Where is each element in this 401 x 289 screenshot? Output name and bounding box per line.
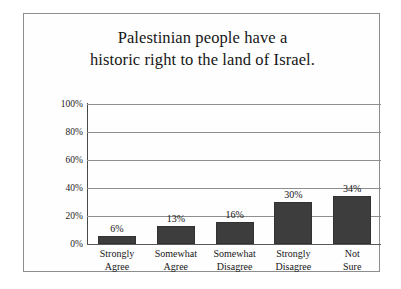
category-label: Not Sure (320, 248, 384, 273)
category-label: Strongly Agree (85, 248, 149, 273)
y-tick-label-60: 60% (49, 155, 83, 165)
category-label: Somewhat Agree (144, 248, 208, 273)
y-axis-tick-labels: 100%80%60%40%20%0% (49, 14, 83, 289)
bar-value-label: 30% (265, 189, 321, 200)
y-tick-label-40: 40% (49, 183, 83, 193)
bar-value-label: 6% (89, 223, 145, 234)
gridline-0 (87, 244, 381, 245)
chart-frame: Palestinian people have a historic right… (23, 13, 380, 272)
bar[interactable] (274, 202, 312, 244)
y-tick-label-100: 100% (49, 99, 83, 109)
y-tick-label-80: 80% (49, 127, 83, 137)
bar[interactable] (333, 196, 371, 244)
bar[interactable] (216, 222, 254, 244)
category-label: Somewhat Disagree (203, 248, 267, 273)
category-label: Strongly Disagree (261, 248, 325, 273)
bar-value-label: 34% (324, 183, 380, 194)
bar-group[interactable]: 30%Strongly Disagree (265, 104, 324, 244)
y-tick-label-0: 0% (49, 239, 83, 249)
bar-value-label: 16% (207, 209, 263, 220)
bar-group[interactable]: 16%Somewhat Disagree (207, 104, 266, 244)
bar-group[interactable]: 13%Somewhat Agree (148, 104, 207, 244)
bar[interactable] (98, 236, 136, 244)
bar-value-label: 13% (148, 213, 204, 224)
plot-area: 6%Strongly Agree13%Somewhat Agree16%Some… (87, 104, 381, 244)
bar-group[interactable]: 34%Not Sure (324, 104, 383, 244)
y-tick-label-20: 20% (49, 211, 83, 221)
bar-group[interactable]: 6%Strongly Agree (89, 104, 148, 244)
bar[interactable] (157, 226, 195, 244)
